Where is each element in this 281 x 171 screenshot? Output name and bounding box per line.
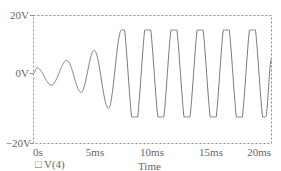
x-label-20ms: 20ms <box>247 146 271 158</box>
y-label-0v: 0V <box>16 67 30 79</box>
x-axis-title: Time <box>138 160 161 171</box>
chart: 20V 0V −20V 0s 5ms 10ms 15ms 20ms □ V(4)… <box>0 0 281 171</box>
x-label-5ms: 5ms <box>86 146 104 158</box>
plot-frame <box>34 16 272 144</box>
x-label-10ms: 10ms <box>140 146 164 158</box>
y-label-20v: 20V <box>10 9 29 21</box>
x-label-0s: 0s <box>33 146 43 158</box>
y-label-neg20v: −20V <box>6 137 31 149</box>
legend-label: V(4) <box>44 158 65 171</box>
trace-v4 <box>34 30 272 117</box>
x-label-15ms: 15ms <box>199 146 223 158</box>
legend-marker-icon: □ <box>35 158 42 170</box>
